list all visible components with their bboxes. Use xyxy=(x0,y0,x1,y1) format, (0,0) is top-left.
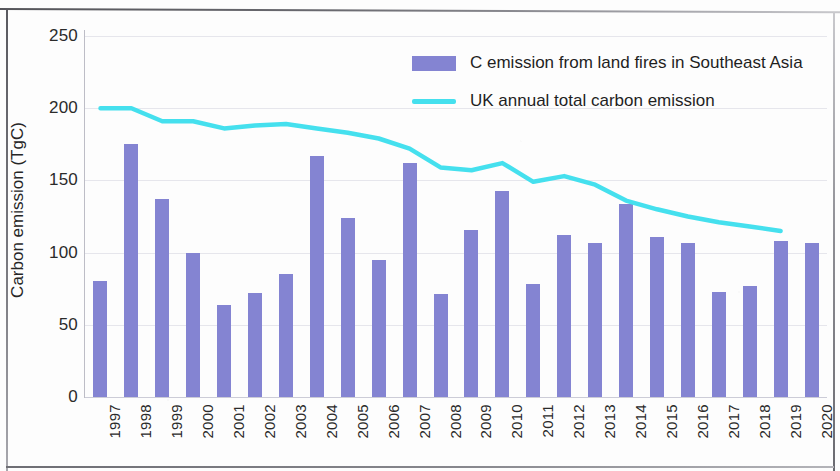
y-axis-tick: 250 xyxy=(32,26,78,46)
x-axis-tick-2020: 2020 xyxy=(818,404,835,439)
bar-2013 xyxy=(588,243,602,398)
x-axis-tick-2011: 2011 xyxy=(539,404,556,437)
x-axis-tick-2000: 2000 xyxy=(199,404,216,439)
legend-label-bar-series: C emission from land fires in Southeast … xyxy=(470,53,803,73)
y-axis-tick: 0 xyxy=(32,387,78,407)
legend-line-swatch-icon xyxy=(412,99,456,104)
x-axis-tick-2015: 2015 xyxy=(663,404,680,439)
x-axis-tick-2010: 2010 xyxy=(508,404,525,439)
bar-1998 xyxy=(124,144,138,397)
bar-2002 xyxy=(248,293,262,397)
chart-legend: C emission from land fires in Southeast … xyxy=(412,44,832,120)
x-axis-tick-2014: 2014 xyxy=(632,404,649,439)
x-axis-tick-1999: 1999 xyxy=(168,404,185,439)
y-axis-tick: 200 xyxy=(32,98,78,118)
x-axis-tick-1997: 1997 xyxy=(106,404,123,439)
x-axis-tick-2016: 2016 xyxy=(694,404,711,439)
bar-2010 xyxy=(495,191,509,397)
bar-2019 xyxy=(774,241,788,397)
x-axis-tick-2004: 2004 xyxy=(323,404,340,439)
gridline xyxy=(85,180,827,181)
figure-border-right xyxy=(833,12,835,471)
x-axis-tick-2002: 2002 xyxy=(261,404,278,439)
bar-2003 xyxy=(279,274,293,397)
x-axis-tick-2009: 2009 xyxy=(477,404,494,439)
figure-border-top xyxy=(0,8,840,13)
y-axis-tick: 150 xyxy=(32,170,78,190)
y-axis-line xyxy=(84,30,85,398)
figure-border-bottom xyxy=(6,466,834,468)
x-axis-tick-2008: 2008 xyxy=(447,404,464,439)
bar-2007 xyxy=(403,163,417,397)
bar-2004 xyxy=(310,156,324,397)
y-axis-tick-labels: 250200150100500 xyxy=(26,36,78,397)
x-axis-tick-2018: 2018 xyxy=(756,404,773,439)
x-axis-tick-2003: 2003 xyxy=(292,404,309,439)
bar-2017 xyxy=(712,292,726,397)
chart-figure: Carbon emission (TgC) 250200150100500 C … xyxy=(0,0,840,471)
bar-2011 xyxy=(526,284,540,397)
bar-1999 xyxy=(155,199,169,397)
bar-2009 xyxy=(464,230,478,398)
bar-2000 xyxy=(186,253,200,397)
bar-2001 xyxy=(217,305,231,397)
bar-1997 xyxy=(93,281,107,397)
legend-item-line-series: UK annual total carbon emission xyxy=(412,82,832,120)
gridline xyxy=(85,36,827,37)
x-axis-tick-2005: 2005 xyxy=(354,404,371,439)
bar-2018 xyxy=(743,286,757,397)
legend-bar-swatch-icon xyxy=(412,56,456,71)
y-axis-label: Carbon emission (TgC) xyxy=(8,50,28,370)
bar-2012 xyxy=(557,235,571,397)
x-axis-tick-2006: 2006 xyxy=(385,404,402,439)
bar-2005 xyxy=(341,218,355,397)
x-axis-tick-2013: 2013 xyxy=(601,404,618,439)
line-path xyxy=(101,108,781,231)
bar-2008 xyxy=(434,294,448,397)
legend-label-line-series: UK annual total carbon emission xyxy=(470,91,715,111)
bar-2006 xyxy=(372,260,386,397)
x-axis-tick-2001: 2001 xyxy=(230,404,247,439)
x-axis-tick-2007: 2007 xyxy=(416,404,433,439)
bar-2014 xyxy=(619,204,633,397)
bar-2016 xyxy=(681,243,695,398)
y-axis-tick: 50 xyxy=(32,315,78,335)
bar-2015 xyxy=(650,237,664,397)
y-axis-tick: 100 xyxy=(32,243,78,263)
legend-item-bar-series: C emission from land fires in Southeast … xyxy=(412,44,832,82)
x-axis-tick-1998: 1998 xyxy=(137,404,154,439)
x-axis-tick-2012: 2012 xyxy=(570,404,587,439)
x-axis-tick-2017: 2017 xyxy=(725,404,742,439)
x-axis-tick-2019: 2019 xyxy=(787,404,804,439)
bar-2020 xyxy=(805,243,819,398)
gridline xyxy=(85,397,827,398)
